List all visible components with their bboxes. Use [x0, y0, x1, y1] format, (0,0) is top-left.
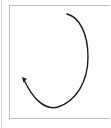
curved-arrow-stroke — [24, 14, 88, 108]
curved-arrow-canvas — [0, 0, 111, 128]
figure-root: Curved arrow diagram An open counter-clo… — [0, 0, 111, 128]
